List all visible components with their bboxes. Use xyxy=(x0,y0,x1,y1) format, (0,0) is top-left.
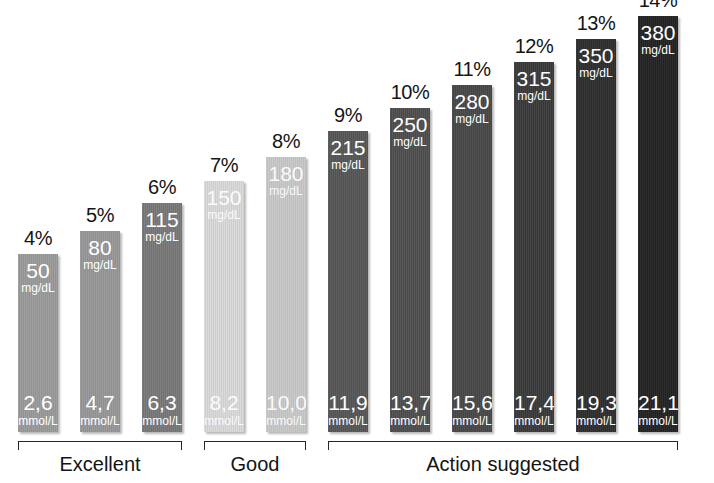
mmoll-number: 2,6 xyxy=(18,392,58,413)
bar-mgdl-value: 150mg/dL xyxy=(204,187,244,222)
bar-column-4pct: 4%50mg/dL2,6mmol/L xyxy=(18,254,58,432)
bar-mmoll-value: 11,9mmol/L xyxy=(328,392,368,427)
mgdl-unit: mg/dL xyxy=(452,113,492,125)
mmoll-number: 8,2 xyxy=(204,392,244,413)
mgdl-number: 380 xyxy=(638,22,678,43)
mgdl-unit: mg/dL xyxy=(80,259,120,271)
mgdl-number: 250 xyxy=(390,114,430,135)
bar-mgdl-value: 115mg/dL xyxy=(142,209,182,244)
mgdl-unit: mg/dL xyxy=(204,209,244,221)
bar-texture xyxy=(452,85,492,432)
mmoll-unit: mmol/L xyxy=(514,415,554,427)
mgdl-number: 180 xyxy=(266,163,306,184)
bar-mmoll-value: 17,4mmol/L xyxy=(514,392,554,427)
bar-mgdl-value: 80mg/dL xyxy=(80,237,120,272)
bar-rect: 380mg/dL21,1mmol/L xyxy=(638,16,678,432)
bar-rect: 350mg/dL19,3mmol/L xyxy=(576,39,616,432)
bar-percent-label: 11% xyxy=(453,58,490,81)
mgdl-unit: mg/dL xyxy=(266,185,306,197)
mmoll-unit: mmol/L xyxy=(18,415,58,427)
bar-mmoll-value: 15,6mmol/L xyxy=(452,392,492,427)
mgdl-unit: mg/dL xyxy=(142,231,182,243)
bar-mgdl-value: 215mg/dL xyxy=(328,137,368,172)
bar-mmoll-value: 2,6mmol/L xyxy=(18,392,58,427)
mgdl-unit: mg/dL xyxy=(328,159,368,171)
bar-mgdl-value: 250mg/dL xyxy=(390,114,430,149)
bar-mmoll-value: 19,3mmol/L xyxy=(576,392,616,427)
bar-percent-label: 10% xyxy=(391,81,430,104)
group-label: Good xyxy=(204,453,306,476)
bar-mgdl-value: 50mg/dL xyxy=(18,260,58,295)
mmoll-number: 15,6 xyxy=(452,392,492,413)
group-bracket xyxy=(18,441,182,450)
bar-column-12pct: 12%315mg/dL17,4mmol/L xyxy=(514,62,554,432)
group-bracket xyxy=(328,441,678,450)
mmoll-unit: mmol/L xyxy=(390,415,430,427)
group-bracket xyxy=(204,441,306,450)
bar-mgdl-value: 280mg/dL xyxy=(452,91,492,126)
bar-column-13pct: 13%350mg/dL19,3mmol/L xyxy=(576,39,616,432)
mgdl-unit: mg/dL xyxy=(514,90,554,102)
bar-percent-label: 7% xyxy=(210,154,238,177)
mmoll-number: 4,7 xyxy=(80,392,120,413)
bar-rect: 150mg/dL8,2mmol/L xyxy=(204,181,244,432)
mgdl-number: 80 xyxy=(80,237,120,258)
bar-group-good: Good xyxy=(204,435,306,483)
bar-rect: 80mg/dL4,7mmol/L xyxy=(80,231,120,432)
mmoll-number: 17,4 xyxy=(514,392,554,413)
bar-mmoll-value: 10,0mmol/L xyxy=(266,392,306,427)
bar-texture xyxy=(514,62,554,432)
mmoll-number: 6,3 xyxy=(142,392,182,413)
mgdl-unit: mg/dL xyxy=(576,67,616,79)
mmoll-number: 19,3 xyxy=(576,392,616,413)
mmoll-unit: mmol/L xyxy=(576,415,616,427)
mgdl-number: 50 xyxy=(18,260,58,281)
bar-percent-label: 8% xyxy=(272,130,300,153)
bar-group-action-suggested: Action suggested xyxy=(328,435,678,483)
mgdl-number: 280 xyxy=(452,91,492,112)
bar-texture xyxy=(390,108,430,432)
bar-column-11pct: 11%280mg/dL15,6mmol/L xyxy=(452,85,492,432)
group-label: Action suggested xyxy=(328,453,678,476)
bar-rect: 315mg/dL17,4mmol/L xyxy=(514,62,554,432)
bar-column-14pct: 14%380mg/dL21,1mmol/L xyxy=(638,16,678,432)
bar-mgdl-value: 380mg/dL xyxy=(638,22,678,57)
bar-rect: 215mg/dL11,9mmol/L xyxy=(328,131,368,432)
mgdl-unit: mg/dL xyxy=(390,136,430,148)
bar-mgdl-value: 180mg/dL xyxy=(266,163,306,198)
bar-texture xyxy=(328,131,368,432)
bar-rect: 280mg/dL15,6mmol/L xyxy=(452,85,492,432)
bar-column-7pct: 7%150mg/dL8,2mmol/L xyxy=(204,181,244,432)
bar-texture xyxy=(576,39,616,432)
bar-percent-label: 14% xyxy=(639,0,678,12)
bar-percent-label: 5% xyxy=(86,204,114,227)
bar-percent-label: 9% xyxy=(334,104,362,127)
mgdl-unit: mg/dL xyxy=(638,44,678,56)
mgdl-number: 315 xyxy=(514,68,554,89)
mgdl-number: 150 xyxy=(204,187,244,208)
bar-group-excellent: Excellent xyxy=(18,435,182,483)
bar-mmoll-value: 8,2mmol/L xyxy=(204,392,244,427)
bar-mmoll-value: 4,7mmol/L xyxy=(80,392,120,427)
mmoll-unit: mmol/L xyxy=(452,415,492,427)
mmoll-number: 13,7 xyxy=(390,392,430,413)
bar-texture xyxy=(638,16,678,432)
mmoll-unit: mmol/L xyxy=(328,415,368,427)
bar-column-10pct: 10%250mg/dL13,7mmol/L xyxy=(390,108,430,432)
bar-mmoll-value: 6,3mmol/L xyxy=(142,392,182,427)
bar-rect: 250mg/dL13,7mmol/L xyxy=(390,108,430,432)
bar-rect: 180mg/dL10,0mmol/L xyxy=(266,157,306,432)
mgdl-number: 215 xyxy=(328,137,368,158)
bar-percent-label: 4% xyxy=(24,227,52,250)
mmoll-unit: mmol/L xyxy=(638,415,678,427)
mmoll-unit: mmol/L xyxy=(80,415,120,427)
mmoll-number: 11,9 xyxy=(328,392,368,413)
mmoll-number: 21,1 xyxy=(638,392,678,413)
group-label: Excellent xyxy=(18,453,182,476)
bar-percent-label: 12% xyxy=(515,35,554,58)
bar-percent-label: 13% xyxy=(577,12,616,35)
mgdl-number: 115 xyxy=(142,209,182,230)
glucose-conversion-chart: 4%50mg/dL2,6mmol/L5%80mg/dL4,7mmol/L6%11… xyxy=(0,0,714,483)
bar-rect: 115mg/dL6,3mmol/L xyxy=(142,203,182,432)
bar-mgdl-value: 350mg/dL xyxy=(576,45,616,80)
